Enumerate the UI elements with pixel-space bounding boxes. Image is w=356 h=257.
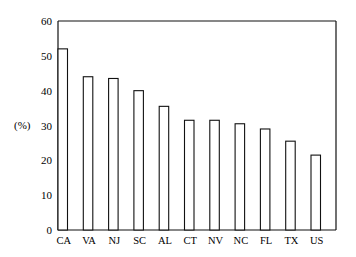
y-axis: 0102030405060 <box>41 15 53 236</box>
x-tick-label: US <box>310 235 324 246</box>
bar-nj <box>109 78 119 230</box>
bar-sc <box>134 91 144 230</box>
bar-ca <box>58 49 68 230</box>
bars <box>58 49 321 230</box>
bar-us <box>311 155 321 230</box>
bar-ct <box>185 120 195 230</box>
x-tick-label: NC <box>234 235 249 246</box>
bar-fl <box>260 129 270 230</box>
x-tick-label: NJ <box>109 235 121 246</box>
y-tick-label: 10 <box>41 189 53 201</box>
y-tick-label: 40 <box>41 85 53 97</box>
x-tick-label: VA <box>82 235 96 246</box>
x-axis: CAVANJSCALCTNVNCFLTXUS <box>56 235 323 246</box>
x-tick-label: AL <box>158 235 172 246</box>
x-tick-label: CT <box>184 235 198 246</box>
x-tick-label: FL <box>260 235 272 246</box>
bar-tx <box>286 141 296 230</box>
x-tick-label: TX <box>284 235 298 246</box>
bar-nc <box>235 124 245 230</box>
y-tick-label: 0 <box>47 224 53 236</box>
bar-al <box>159 106 169 230</box>
y-tick-label: 20 <box>41 154 53 166</box>
y-tick-label: 50 <box>41 50 53 62</box>
y-tick-label: 30 <box>41 120 53 132</box>
y-tick-label: 60 <box>41 15 53 27</box>
bar-chart: 0102030405060 CAVANJSCALCTNVNCFLTXUS (%) <box>0 0 356 257</box>
x-tick-label: SC <box>133 235 146 246</box>
x-tick-label: CA <box>56 235 71 246</box>
bar-nv <box>210 120 220 230</box>
bar-va <box>83 77 93 230</box>
x-tick-label: NV <box>208 235 224 246</box>
y-axis-label: (%) <box>14 119 31 132</box>
